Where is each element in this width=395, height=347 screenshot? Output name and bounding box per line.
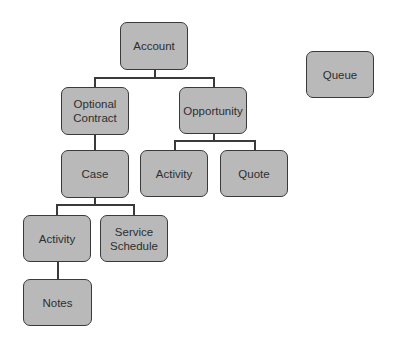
connector-activity-to-notes <box>57 262 59 279</box>
connector-to-quote <box>254 140 256 150</box>
node-label: Activity <box>156 167 192 181</box>
node-notes: Notes <box>23 279 92 326</box>
node-label: Case <box>82 167 109 181</box>
node-opportunity-activity: Activity <box>140 150 208 197</box>
node-label: Quote <box>238 167 269 181</box>
connector-to-case-activity <box>56 204 58 215</box>
node-label: Notes <box>42 296 72 310</box>
node-label: Queue <box>323 68 358 82</box>
node-opportunity: Opportunity <box>179 87 247 134</box>
node-label: Service Schedule <box>110 225 158 253</box>
connector-optional-contract-to-case <box>94 135 96 150</box>
entity-hierarchy-diagram: Account Optional Contract Opportunity Qu… <box>0 0 395 347</box>
node-label: Optional Contract <box>73 97 116 125</box>
connector-case-bus <box>56 204 135 206</box>
connector-to-service-schedule <box>133 204 135 215</box>
node-label: Opportunity <box>183 104 242 118</box>
connector-to-optional-contract <box>94 77 96 87</box>
connector-to-opportunity-activity <box>174 140 176 150</box>
node-label: Account <box>133 39 175 53</box>
node-account: Account <box>120 22 188 70</box>
connector-account-bus <box>94 77 215 79</box>
node-label: Activity <box>39 232 75 246</box>
node-optional-contract: Optional Contract <box>61 87 129 135</box>
node-quote: Quote <box>220 150 288 197</box>
node-case: Case <box>61 150 129 198</box>
node-service-schedule: Service Schedule <box>100 215 168 262</box>
connector-to-opportunity <box>213 77 215 87</box>
node-case-activity: Activity <box>23 215 91 262</box>
connector-opportunity-bus <box>174 140 255 142</box>
node-queue: Queue <box>306 51 374 98</box>
